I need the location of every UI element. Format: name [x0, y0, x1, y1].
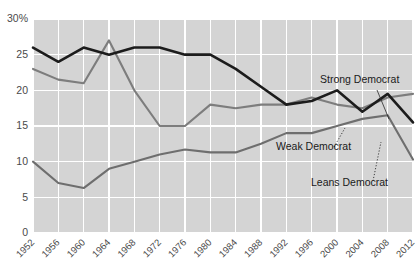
chart-container: 051015202530% 19521956196019641968197219… — [0, 0, 416, 278]
series-label-weak-democrat: Weak Democrat — [276, 140, 351, 152]
y-axis-tick-label: 5 — [22, 191, 28, 203]
series-label-leans-democrat: Leans Democrat — [311, 176, 388, 188]
y-axis-tick-label: 10 — [16, 155, 28, 167]
series-label-strong-democrat: Strong Democrat — [320, 73, 399, 85]
y-axis-tick-label: 0 — [22, 226, 28, 238]
y-axis-tick-label: 20 — [16, 84, 28, 96]
line-chart: 051015202530% 19521956196019641968197219… — [0, 0, 416, 278]
y-axis-tick-label: 30% — [7, 12, 28, 24]
y-axis-tick-label: 15 — [16, 119, 28, 131]
y-axis-tick-label: 25 — [16, 48, 28, 60]
